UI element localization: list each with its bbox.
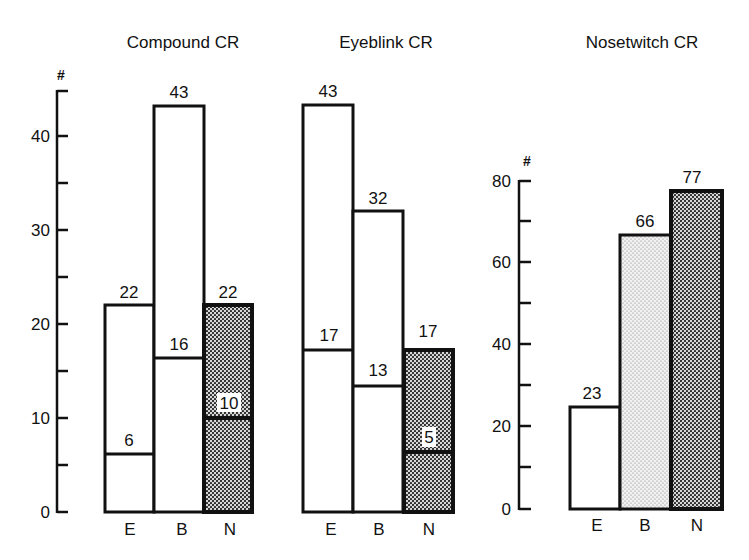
x-tick-label: B [176,520,187,539]
y-axis [57,90,68,513]
x-tick-label: B [373,520,384,539]
x-tick-label: E [124,520,135,539]
y-tick-label: 20 [492,417,511,436]
bar-b [620,235,671,509]
bar-n [671,191,722,509]
panel-title: Compound CR [127,33,239,52]
y-axis-label: # [57,67,65,83]
x-tick-label: E [325,520,336,539]
y-tick-label: 30 [31,221,50,240]
value-label: 32 [369,189,388,208]
panel-eyeblink-cr: Eyeblink CR 43 32 17 17 13 5 E B N [303,33,453,539]
panel-title: Eyeblink CR [339,33,433,52]
x-tick-label: N [691,516,703,535]
y-tick-label: 0 [41,503,50,522]
bars [570,191,722,509]
y-tick-label: 10 [31,409,50,428]
value-label: 16 [170,335,189,354]
bar-e [570,407,620,509]
value-label: 77 [683,168,702,187]
y-tick-label: 20 [31,315,50,334]
figure: Compound CR # 0 10 20 30 40 [0,0,749,560]
bar-b [154,106,204,512]
y-tick-label: 40 [492,335,511,354]
value-label: 43 [170,83,189,102]
bar-e [105,305,154,512]
value-label: 23 [583,384,602,403]
value-label: 5 [424,428,433,447]
bars [303,105,453,512]
value-label: 6 [124,431,133,450]
y-axis-label: # [523,153,531,169]
y-axis [519,180,531,510]
y-tick-label: 60 [492,253,511,272]
x-tick-label: N [224,520,236,539]
value-label: 22 [120,283,139,302]
panel-nosetwitch-cr: Nosetwitch CR # 0 20 40 60 80 23 [492,33,722,535]
value-label: 17 [419,322,438,341]
value-label: 10 [220,394,239,413]
bar-e [303,105,353,512]
y-tick-label: 40 [31,127,50,146]
x-tick-label: E [591,516,602,535]
value-label: 13 [369,361,388,380]
panel-title: Nosetwitch CR [586,33,698,52]
value-label: 17 [320,326,339,345]
x-tick-label: B [639,516,650,535]
y-tick-label: 0 [502,500,511,519]
x-tick-label: N [423,520,435,539]
bars [105,106,252,512]
value-label: 43 [319,82,338,101]
y-tick-label: 80 [492,172,511,191]
panel-compound-cr: Compound CR # 0 10 20 30 40 [31,33,252,539]
value-label: 22 [219,283,238,302]
value-label: 66 [636,212,655,231]
